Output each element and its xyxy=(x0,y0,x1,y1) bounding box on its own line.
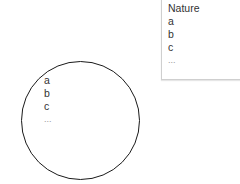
nature-list: Nature a b c ... xyxy=(168,2,200,67)
circle-list: a b c ... xyxy=(44,74,52,126)
list-item: a xyxy=(44,74,52,87)
nature-title: Nature xyxy=(168,2,200,15)
list-item: a xyxy=(168,15,200,28)
list-item: c xyxy=(44,100,52,113)
list-item: b xyxy=(44,87,52,100)
list-item: c xyxy=(168,41,200,54)
list-ellipsis: ... xyxy=(44,113,52,126)
list-ellipsis: ... xyxy=(168,54,200,67)
list-item: b xyxy=(168,28,200,41)
circle-shape xyxy=(21,61,140,180)
nature-box: Nature a b c ... xyxy=(161,0,240,80)
